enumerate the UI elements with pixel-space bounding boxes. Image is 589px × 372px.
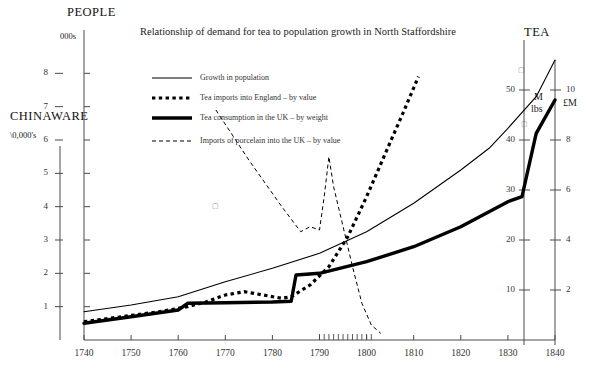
axis-spines — [60, 30, 555, 345]
legend-label-0: Growth in population — [200, 74, 269, 82]
x-tick-label-1800: 1800 — [357, 349, 376, 359]
data-series-layer — [84, 60, 555, 333]
x-tick-label-1750: 1750 — [122, 349, 141, 359]
tea-weight-tick-label-30: 30 — [506, 185, 515, 194]
tea-weight-tick-label-40: 40 — [506, 135, 515, 144]
legend-label-3: Imports of porcelain into the UK – by va… — [200, 137, 340, 145]
tea-value-tick-label-6: 6 — [566, 185, 571, 194]
chinaware-tick-label-2: 2 — [44, 268, 49, 277]
x-tick-label-1780: 1780 — [263, 349, 282, 359]
series-tea_consumption_weight — [84, 100, 555, 323]
chinaware-tick-label-3: 3 — [44, 235, 49, 244]
x-tick-label-1740: 1740 — [75, 349, 94, 359]
tea-weight-tick-label-50: 50 — [506, 85, 515, 94]
tea-value-tick-label-8: 8 — [566, 135, 571, 144]
x-tick-label-1840: 1840 — [546, 349, 565, 359]
chinaware-tick-label-4: 4 — [44, 202, 49, 211]
chinaware-tick-label-6: 6 — [44, 135, 49, 144]
chinaware-tick-label-1: 1 — [44, 302, 49, 311]
tea-value-tick-label-4: 4 — [566, 235, 571, 244]
x-tick-label-1820: 1820 — [451, 349, 470, 359]
x-tick-label-1810: 1810 — [404, 349, 423, 359]
x-tick-label-1830: 1830 — [498, 349, 517, 359]
chinaware-tick-label-8: 8 — [44, 68, 49, 77]
x-tick-label-1760: 1760 — [169, 349, 188, 359]
tea-value-tick-label-2: 2 — [566, 285, 571, 294]
chinaware-tick-label-7: 7 — [44, 102, 49, 111]
legend-label-1: Tea imports into England – by value — [200, 94, 316, 102]
chart-figure: Relationship of demand for tea to popula… — [0, 0, 589, 372]
x-tick-label-1790: 1790 — [310, 349, 329, 359]
legend-label-2: Tea consumption in the UK – by weight — [200, 114, 328, 122]
chinaware-tick-label-5: 5 — [44, 168, 49, 177]
legend-swatches — [152, 78, 192, 141]
tea-weight-tick-label-10: 10 — [506, 285, 515, 294]
chart-canvas — [0, 0, 589, 372]
x-tick-label-1770: 1770 — [216, 349, 235, 359]
tea-value-tick-label-10: 10 — [566, 85, 575, 94]
tea-weight-tick-label-20: 20 — [506, 235, 515, 244]
